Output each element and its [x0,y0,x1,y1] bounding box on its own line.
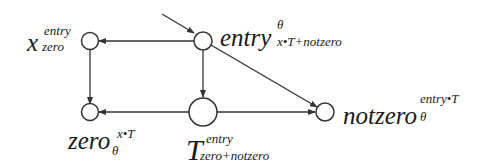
edge-entry-to-notzero [211,45,317,107]
node-entry [194,32,212,50]
label-zero-base: zero [68,128,110,153]
label-x-zero-sub: zero [42,40,64,53]
node-x-zero [82,33,99,50]
label-notzero-base: notzero [343,103,417,128]
label-x-zero-base: x [27,30,38,55]
label-zero-sup: x•T [117,127,135,140]
label-zero-sub: θ [112,144,118,157]
node-notzero [316,103,334,121]
label-notzero-sup: entry•T [420,92,459,105]
node-t [189,98,217,126]
label-entry-sub: x•T+notzero [277,35,342,48]
label-t-sub: zero+notzero [200,149,269,162]
edge-start-to-entry [162,14,194,33]
state-diagram: x zero entry entry θ x•T+notzero zero x•… [0,0,489,168]
label-t-sup: entry [206,132,233,145]
node-zero [82,104,99,121]
label-entry-base: entry [220,25,271,50]
label-x-zero-sup: entry [44,24,71,37]
label-notzero-sub: θ [420,110,426,123]
label-entry-sup: θ [277,18,283,31]
